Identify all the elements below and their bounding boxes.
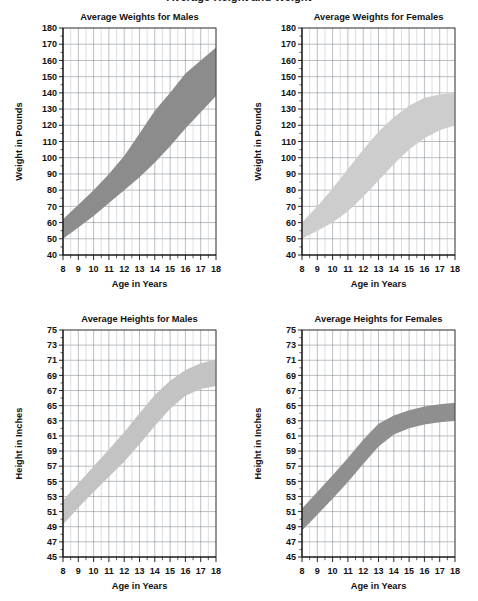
x-tick-label: 14: [150, 264, 160, 274]
y-tick-label: 57: [47, 461, 57, 471]
x-tick-label: 10: [89, 264, 99, 274]
x-tick-label: 15: [165, 566, 175, 576]
chart-weights-females: Average Weights for Females4050607080901…: [239, 8, 478, 300]
y-tick-label: 150: [281, 72, 296, 82]
x-tick-label: 14: [389, 566, 399, 576]
x-tick-label: 16: [180, 264, 190, 274]
y-tick-label: 50: [47, 234, 57, 244]
x-tick-label: 9: [315, 566, 320, 576]
y-tick-label: 51: [47, 507, 57, 517]
x-tick-label: 16: [419, 264, 429, 274]
x-tick-label: 10: [328, 264, 338, 274]
y-tick-label: 47: [47, 537, 57, 547]
x-tick-label: 18: [450, 566, 460, 576]
y-tick-label: 75: [286, 325, 296, 335]
x-tick-label: 12: [358, 264, 368, 274]
x-tick-label: 16: [180, 566, 190, 576]
y-tick-label: 71: [47, 355, 57, 365]
y-tick-label: 90: [286, 169, 296, 179]
y-tick-label: 73: [47, 340, 57, 350]
y-tick-label: 65: [286, 401, 296, 411]
y-tick-label: 49: [286, 522, 296, 532]
x-tick-label: 17: [435, 566, 445, 576]
y-tick-label: 69: [286, 371, 296, 381]
y-tick-label: 53: [286, 492, 296, 502]
x-tick-label: 18: [211, 566, 221, 576]
x-tick-label: 18: [450, 264, 460, 274]
y-tick-label: 90: [47, 169, 57, 179]
x-tick-label: 10: [328, 566, 338, 576]
y-tick-label: 50: [286, 234, 296, 244]
x-tick-label: 8: [299, 566, 304, 576]
y-tick-label: 70: [47, 202, 57, 212]
x-tick-label: 13: [134, 566, 144, 576]
x-tick-label: 8: [60, 264, 65, 274]
x-tick-label: 11: [104, 264, 114, 274]
y-tick-label: 80: [47, 185, 57, 195]
y-tick-label: 180: [281, 23, 296, 33]
y-tick-label: 59: [47, 446, 57, 456]
x-tick-label: 11: [343, 264, 353, 274]
y-tick-label: 51: [286, 507, 296, 517]
y-tick-label: 45: [286, 552, 296, 562]
x-tick-label: 9: [76, 566, 81, 576]
x-tick-label: 18: [211, 264, 221, 274]
x-tick-label: 14: [150, 566, 160, 576]
x-tick-label: 9: [315, 264, 320, 274]
x-axis-title: Age in Years: [112, 581, 168, 591]
y-tick-label: 65: [47, 401, 57, 411]
y-tick-label: 100: [281, 153, 296, 163]
x-tick-label: 17: [435, 264, 445, 274]
y-tick-label: 63: [286, 416, 296, 426]
y-tick-label: 75: [47, 325, 57, 335]
y-tick-label: 69: [47, 371, 57, 381]
y-axis-title: Weight in Pounds: [253, 102, 263, 180]
x-tick-label: 8: [60, 566, 65, 576]
y-tick-label: 63: [47, 416, 57, 426]
y-tick-label: 49: [47, 522, 57, 532]
growth-charts-page: Average Height and Weight Average Weight…: [0, 0, 478, 601]
x-tick-label: 9: [76, 264, 81, 274]
y-tick-label: 40: [47, 250, 57, 260]
page-header-cutoff: Average Height and Weight: [0, 0, 478, 3]
y-tick-label: 150: [42, 72, 57, 82]
x-tick-label: 11: [104, 566, 114, 576]
y-tick-label: 55: [47, 477, 57, 487]
chart-title: Average Weights for Males: [80, 12, 198, 22]
x-axis-title: Age in Years: [112, 279, 168, 289]
x-tick-label: 17: [196, 566, 206, 576]
chart-weights-males: Average Weights for Males405060708090100…: [0, 8, 239, 300]
x-tick-label: 11: [343, 566, 353, 576]
x-tick-label: 13: [373, 264, 383, 274]
x-tick-label: 12: [358, 566, 368, 576]
x-tick-label: 17: [196, 264, 206, 274]
x-tick-label: 16: [419, 566, 429, 576]
x-axis-title: Age in Years: [351, 581, 407, 591]
chart-title: Average Heights for Males: [81, 314, 197, 324]
x-tick-label: 12: [119, 264, 129, 274]
y-tick-label: 53: [47, 492, 57, 502]
y-tick-label: 61: [47, 431, 57, 441]
y-tick-label: 160: [281, 56, 296, 66]
x-tick-label: 12: [119, 566, 129, 576]
y-tick-label: 110: [281, 137, 296, 147]
chart-heights-females: Average Heights for Females4547495153555…: [239, 310, 478, 601]
y-tick-label: 67: [47, 386, 57, 396]
x-tick-label: 13: [373, 566, 383, 576]
x-tick-label: 14: [389, 264, 399, 274]
x-tick-label: 15: [404, 566, 414, 576]
x-tick-label: 15: [165, 264, 175, 274]
y-axis-title: Height in Inches: [253, 408, 263, 480]
y-tick-label: 57: [286, 461, 296, 471]
y-tick-label: 120: [281, 120, 296, 130]
y-tick-label: 140: [281, 88, 296, 98]
y-tick-label: 60: [286, 218, 296, 228]
y-tick-label: 120: [42, 120, 57, 130]
chart-heights-males: Average Heights for Males454749515355575…: [0, 310, 239, 601]
y-tick-label: 71: [286, 355, 296, 365]
y-tick-label: 73: [286, 340, 296, 350]
y-tick-label: 130: [42, 104, 57, 114]
y-tick-label: 160: [42, 56, 57, 66]
y-axis-title: Weight in Pounds: [14, 102, 24, 180]
y-tick-label: 170: [42, 39, 57, 49]
